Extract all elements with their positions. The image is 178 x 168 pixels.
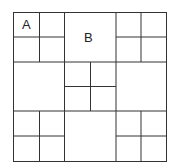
label-b: B — [84, 31, 93, 44]
label-a: A — [22, 18, 31, 31]
